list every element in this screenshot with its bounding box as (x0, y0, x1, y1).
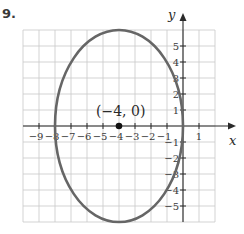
svg-text:1: 1 (173, 105, 179, 116)
svg-text:−3: −3 (125, 131, 140, 142)
svg-text:−2: −2 (141, 131, 156, 142)
y-axis-label: y (167, 7, 176, 22)
ellipse-graph: −9−8−7−6−5−4−3−2−1154321−1−2−3−4−5 x y (… (0, 0, 244, 234)
x-axis-arrow-icon (228, 123, 236, 130)
svg-text:−6: −6 (77, 131, 92, 142)
svg-text:−2: −2 (164, 153, 179, 164)
svg-text:−1: −1 (164, 137, 179, 148)
svg-text:−5: −5 (164, 201, 179, 212)
center-point (116, 123, 123, 130)
y-axis-arrow-icon (180, 13, 187, 21)
x-axis-label: x (229, 133, 237, 148)
svg-text:1: 1 (196, 131, 202, 142)
svg-text:−5: −5 (93, 131, 108, 142)
svg-text:5: 5 (173, 41, 179, 52)
svg-text:−7: −7 (61, 131, 76, 142)
svg-text:−8: −8 (45, 131, 60, 142)
svg-text:−9: −9 (29, 131, 44, 142)
svg-text:−4: −4 (109, 131, 124, 142)
center-label: (−4, 0) (96, 103, 145, 119)
svg-text:4: 4 (173, 57, 179, 68)
